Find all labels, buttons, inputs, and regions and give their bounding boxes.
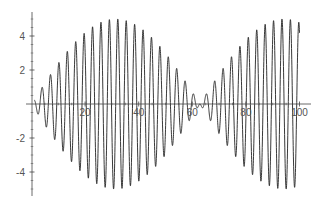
x-axis: 20406080100 bbox=[26, 102, 311, 119]
x-tick-label: 20 bbox=[80, 107, 92, 118]
x-tick-label: 40 bbox=[133, 107, 145, 118]
x-tick-label: 60 bbox=[187, 107, 199, 118]
line-chart: -4-224 20406080100 bbox=[0, 0, 326, 203]
y-tick-label: 4 bbox=[19, 31, 25, 42]
x-tick-label: 80 bbox=[240, 107, 252, 118]
y-tick-label: 2 bbox=[19, 65, 25, 76]
x-tick-label: 100 bbox=[291, 107, 308, 118]
y-tick-label: -2 bbox=[16, 133, 25, 144]
y-tick-label: -4 bbox=[16, 167, 25, 178]
